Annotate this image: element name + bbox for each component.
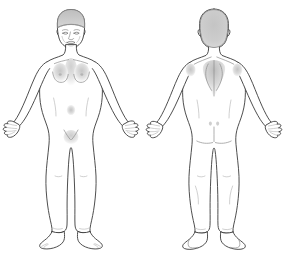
back-view-svg [143, 0, 285, 257]
body-diagram [0, 0, 285, 257]
back-deltoid-shade-right [232, 64, 242, 77]
front-nipple-right [80, 73, 83, 76]
front-hand-right [122, 121, 139, 137]
back-view-figure [143, 0, 285, 257]
back-foot-left [183, 232, 208, 250]
back-deltoid-shade-left [186, 64, 196, 77]
front-view-svg [0, 0, 142, 257]
front-foot-right [77, 231, 102, 249]
back-hand-right [265, 121, 282, 137]
back-dimple-right [216, 122, 219, 126]
front-body-outline [3, 10, 139, 249]
front-hand-left [3, 121, 20, 137]
back-foot-right [220, 232, 245, 250]
front-pubic-shade [64, 130, 79, 144]
front-nipple-left [59, 73, 62, 76]
front-foot-left [40, 231, 65, 249]
back-torso-shading [149, 57, 278, 248]
back-hair [200, 10, 228, 48]
back-dimple-left [209, 122, 212, 126]
front-navel-shade [67, 105, 76, 115]
front-view-figure [0, 0, 142, 257]
back-hand-left [146, 121, 163, 137]
